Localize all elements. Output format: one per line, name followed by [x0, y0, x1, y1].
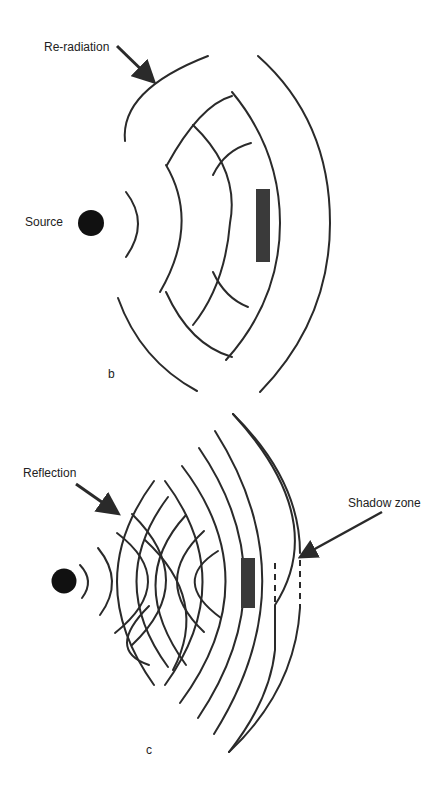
panel-b — [78, 46, 330, 392]
source-circle-icon — [78, 210, 104, 236]
wave-diagram — [0, 0, 441, 796]
shadow-zone-arrow-icon — [302, 512, 382, 556]
panel-c — [52, 414, 383, 752]
source-circle-icon-c — [52, 569, 77, 594]
obstacle-b — [256, 189, 270, 262]
obstacle-c — [241, 558, 255, 608]
re-radiation-arrow-icon — [117, 46, 152, 80]
reflection-arrow-icon — [76, 484, 116, 512]
